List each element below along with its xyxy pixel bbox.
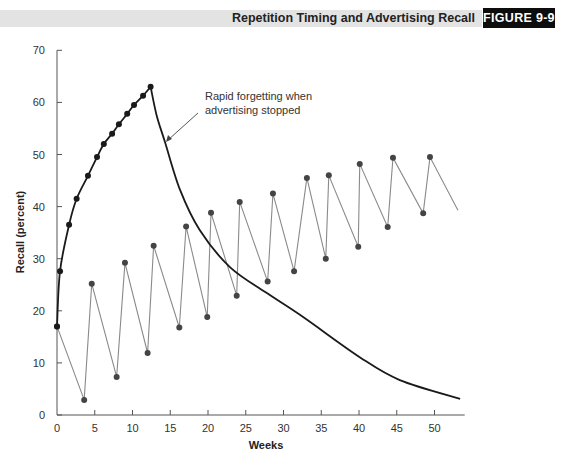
concentrated-series-marker [94,154,100,160]
spaced-series-marker [390,155,396,161]
spaced-series-marker [385,224,391,230]
y-tick-label: 10 [33,357,45,369]
spaced-series-marker [183,223,189,229]
spaced-series-marker [323,256,329,262]
concentrated-series-marker [74,196,80,202]
chart-annotation: Rapid forgetting when advertising stoppe… [166,90,312,142]
y-tick-label: 30 [33,253,45,265]
spaced-series-marker [326,172,332,178]
concentrated-series-marker [140,93,146,99]
x-tick-label: 30 [277,422,289,434]
spaced-series-marker [304,175,310,181]
spaced-series-marker [176,324,182,330]
concentrated-series-marker [101,141,107,147]
recall-chart: 01020304050607005101520253035404550 Rapi… [0,0,570,462]
concentrated-series-marker [54,323,60,329]
y-tick-label: 70 [33,44,45,56]
x-tick-label: 20 [202,422,214,434]
y-tick-label: 50 [33,149,45,161]
y-tick-label: 40 [33,201,45,213]
x-tick-label: 10 [126,422,138,434]
spaced-series-marker [122,260,128,266]
y-axis-title: Recall (percent) [14,190,26,273]
concentrated-series-marker [116,121,122,127]
x-tick-label: 25 [240,422,252,434]
x-axis-title: Weeks [249,439,284,451]
concentrated-series-marker [109,131,115,137]
y-tick-label: 0 [39,409,45,421]
x-tick-label: 0 [54,422,60,434]
spaced-series-marker [427,154,433,160]
spaced-series-marker [291,268,297,274]
chart-series [54,84,460,403]
spaced-series-marker [357,161,363,167]
spaced-series-marker [237,199,243,205]
annotation-line-1: Rapid forgetting when [205,90,312,102]
concentrated-series-line [57,87,151,327]
y-tick-label: 60 [33,96,45,108]
spaced-series-marker [270,191,276,197]
x-tick-label: 35 [315,422,327,434]
chart-axes: 01020304050607005101520253035404550 [33,44,465,434]
concentrated-series-marker [57,268,63,274]
spaced-series-marker [204,314,210,320]
annotation-line-2: advertising stopped [205,104,300,116]
spaced-series-marker [355,244,361,250]
spaced-series-marker [81,397,87,403]
spaced-series-marker [420,210,426,216]
concentrated-series-marker [148,84,154,90]
spaced-series-marker [114,374,120,380]
annotation-arrow-icon [166,113,198,142]
spaced-series-marker [265,279,271,285]
concentrated-series-marker [124,111,130,117]
x-tick-label: 15 [164,422,176,434]
concentrated-series-marker [85,173,91,179]
forgetting-curve-line [151,87,461,399]
x-tick-label: 5 [92,422,98,434]
spaced-series-marker [208,210,214,216]
x-tick-label: 40 [353,422,365,434]
spaced-series-marker [151,243,157,249]
spaced-series-marker [145,350,151,356]
spaced-series-marker [89,281,95,287]
concentrated-series-marker [131,102,137,108]
spaced-series-marker [234,293,240,299]
y-tick-label: 20 [33,305,45,317]
x-tick-label: 45 [391,422,403,434]
x-tick-label: 50 [428,422,440,434]
concentrated-series-marker [66,222,72,228]
spaced-series-line [57,157,458,400]
